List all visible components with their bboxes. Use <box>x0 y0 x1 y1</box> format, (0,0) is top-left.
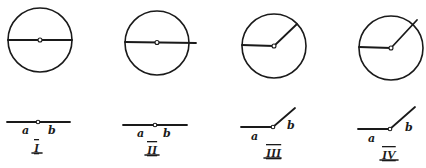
figure-3-radius-a <box>242 45 274 46</box>
figure-1-label-b: b <box>48 124 56 137</box>
figure-4-ray-b-extended <box>391 20 417 48</box>
figure-4-radius-a <box>359 47 391 48</box>
figure-1-center-point <box>38 38 42 42</box>
figure-2-diameter-extended <box>125 42 196 43</box>
figure-4-label-a: a <box>368 132 375 145</box>
figure-3-label-a: a <box>251 130 258 143</box>
figure-1-vertex <box>36 120 40 124</box>
figure-1-label-a: a <box>22 124 29 137</box>
figure-4-label-b: b <box>405 121 413 134</box>
figure-4-center-point <box>389 46 393 50</box>
figure-2-label-b: b <box>163 127 171 140</box>
figure-2: a b II <box>123 11 196 157</box>
figure-3: a b III <box>241 14 306 160</box>
figure-1: a b I <box>7 8 72 155</box>
angle-diagram: a b I a b II a b III <box>0 0 426 168</box>
figure-4: a b IV <box>358 16 423 162</box>
figure-3-center-point <box>272 44 276 48</box>
figure-2-center-point <box>155 41 159 45</box>
figure-2-vertex <box>153 123 157 127</box>
figure-3-radius-b <box>274 24 297 46</box>
figure-4-vertex <box>388 127 392 131</box>
figure-2-label-a: a <box>137 127 144 140</box>
figure-3-label-b: b <box>287 119 295 132</box>
figure-3-vertex <box>271 125 275 129</box>
